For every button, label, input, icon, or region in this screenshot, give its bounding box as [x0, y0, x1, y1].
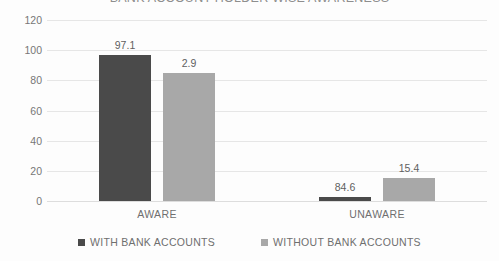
y-axis-tick-label: 100 [2, 44, 42, 56]
bar-value-label: 2.9 [182, 57, 197, 69]
bar-value-label: 97.1 [115, 39, 135, 51]
y-axis-tick-label: 20 [2, 165, 42, 177]
gridline [47, 201, 487, 202]
y-axis: 020406080100120 [0, 20, 42, 201]
legend-swatch-icon [78, 239, 85, 246]
plot-area: 97.12.984.615.4 [47, 20, 487, 201]
y-axis-tick-label: 80 [2, 74, 42, 86]
gridline [47, 20, 487, 21]
y-axis-tick-label: 120 [2, 14, 42, 26]
legend-item[interactable]: WITH BANK ACCOUNTS [78, 236, 215, 248]
legend-item[interactable]: WITHOUT BANK ACCOUNTS [261, 236, 421, 248]
bar-value-label: 15.4 [399, 162, 419, 174]
legend-label: WITH BANK ACCOUNTS [90, 236, 215, 248]
bar [99, 55, 151, 201]
y-axis-tick-label: 60 [2, 105, 42, 117]
gridline [47, 50, 487, 51]
chart-title: BANK ACCOUNT HOLDER WISE AWARENESS [0, 0, 499, 5]
x-axis-tick-label: UNAWARE [349, 208, 405, 220]
legend-label: WITHOUT BANK ACCOUNTS [273, 236, 421, 248]
x-axis-tick-label: AWARE [137, 208, 177, 220]
chart-legend: WITH BANK ACCOUNTSWITHOUT BANK ACCOUNTS [0, 236, 499, 248]
legend-swatch-icon [261, 239, 268, 246]
bar [163, 73, 215, 201]
y-axis-tick-label: 40 [2, 135, 42, 147]
y-axis-tick-label: 0 [2, 195, 42, 207]
bar-chart: BANK ACCOUNT HOLDER WISE AWARENESS 02040… [0, 0, 499, 261]
bar [383, 178, 435, 201]
bar-value-label: 84.6 [335, 181, 355, 193]
bar [319, 197, 371, 201]
